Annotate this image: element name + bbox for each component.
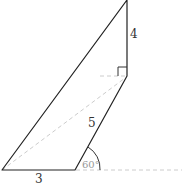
label-side-3: 3: [35, 172, 43, 183]
label-angle-60: 60°: [82, 159, 100, 170]
geometry-diagram: 4 5 3 60°: [0, 0, 182, 183]
dashed-diagonal: [2, 78, 125, 170]
shape-outline: [2, 0, 127, 170]
label-side-4: 4: [130, 27, 138, 41]
right-angle-marker: [118, 67, 127, 76]
label-side-5: 5: [88, 116, 96, 130]
